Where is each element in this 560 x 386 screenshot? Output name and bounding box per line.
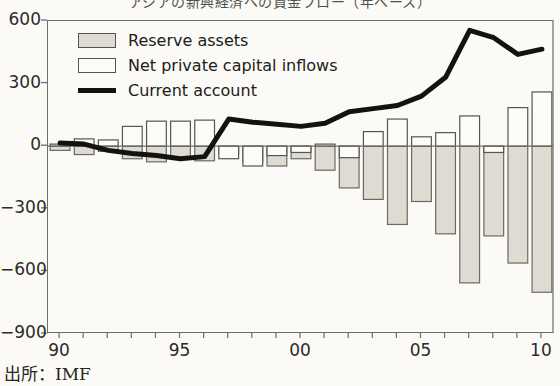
chart-figure: アジアの新興経済への資金フロー（年ベース） 6003000−300−600−90… [0,0,560,386]
net-private-capital-inflows-bar [147,121,167,146]
y-tick-label: −900 [0,322,41,342]
y-tick-label: 0 [0,134,41,154]
x-tick-label: 05 [400,340,440,360]
black-line-icon [78,88,116,93]
x-tick-label: 00 [280,340,320,360]
net-private-capital-inflows-bar [484,146,504,152]
shaded-box-icon [78,33,116,48]
bars-group [50,92,552,292]
reserve-assets-bar [315,146,335,170]
chart-legend: Reserve assets Net private capital inflo… [78,28,338,103]
y-tick-label: 600 [0,9,41,29]
net-private-capital-inflows-bar [388,119,408,146]
net-private-capital-inflows-bar [436,133,456,147]
reserve-assets-bar [532,146,552,292]
x-tick-label: 10 [521,340,560,360]
legend-item-net-private-capital-inflows: Net private capital inflows [78,53,338,78]
reserve-assets-bar [436,146,456,234]
net-private-capital-inflows-bar [363,132,383,147]
net-private-capital-inflows-bar [243,146,263,166]
legend-label-current-account: Current account [128,81,257,100]
reserve-assets-bar [484,146,504,236]
y-tick-label: 300 [0,72,41,92]
legend-label-reserve-assets: Reserve assets [128,31,248,50]
net-private-capital-inflows-bar [98,140,118,146]
chart-title: アジアの新興経済への資金フロー（年ベース） [0,0,560,11]
white-box-icon [78,58,116,73]
reserve-assets-bar [508,146,528,263]
legend-label-net-private-capital-inflows: Net private capital inflows [128,56,338,75]
net-private-capital-inflows-bar [508,108,528,147]
reserve-assets-bar [388,146,408,224]
y-tick-label: −600 [0,259,41,279]
net-private-capital-inflows-bar [291,146,311,152]
y-tick-label: −300 [0,197,41,217]
legend-item-current-account: Current account [78,78,338,103]
x-tick-label: 95 [160,340,200,360]
reserve-assets-bar [412,146,432,201]
net-private-capital-inflows-bar [171,121,191,146]
reserve-assets-bar [460,146,480,283]
x-tick-label: 90 [39,340,79,360]
net-private-capital-inflows-bar [122,126,142,146]
source-note: 出所：IMF [4,360,91,385]
net-private-capital-inflows-bar [219,146,239,159]
net-private-capital-inflows-bar [267,146,287,155]
net-private-capital-inflows-bar [339,146,359,157]
net-private-capital-inflows-bar [412,137,432,146]
net-private-capital-inflows-bar [460,116,480,146]
reserve-assets-bar [50,146,70,150]
legend-item-reserve-assets: Reserve assets [78,28,338,53]
reserve-assets-bar [363,146,383,199]
net-private-capital-inflows-bar [532,92,552,146]
